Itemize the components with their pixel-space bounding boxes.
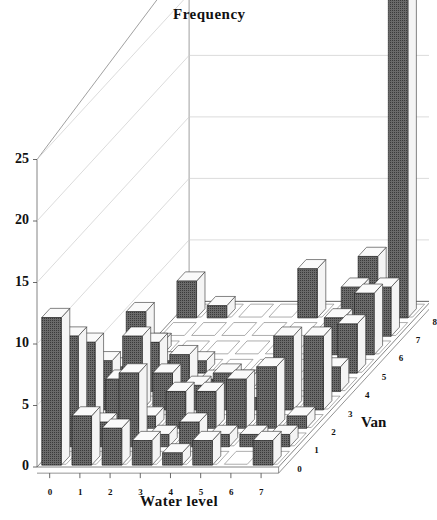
bar xyxy=(227,370,255,428)
bar xyxy=(298,260,326,318)
z-tick-label: 5 xyxy=(382,372,387,382)
bar xyxy=(304,327,332,410)
z-tick-label: 6 xyxy=(399,353,404,363)
x-tick-label: 2 xyxy=(108,487,113,497)
bar xyxy=(132,431,160,465)
bar xyxy=(193,431,221,465)
z-tick-label: 8 xyxy=(433,317,437,327)
z-axis-label: Van xyxy=(361,414,386,431)
x-tick-label: 0 xyxy=(48,487,53,497)
y-tick-label: 25 xyxy=(5,151,29,167)
bar xyxy=(253,431,281,465)
x-axis-label: Water level xyxy=(140,493,218,510)
y-tick-label: 10 xyxy=(5,335,29,351)
x-tick-label: 1 xyxy=(78,487,83,497)
z-tick-label: 3 xyxy=(348,409,353,419)
x-tick-label: 7 xyxy=(259,487,264,497)
bar xyxy=(257,358,285,429)
z-tick-label: 0 xyxy=(297,464,302,474)
z-tick-label: 7 xyxy=(416,335,421,345)
bar xyxy=(177,272,205,318)
bar xyxy=(102,419,130,465)
x-tick-label: 5 xyxy=(199,487,204,497)
y-tick-label: 0 xyxy=(5,458,29,474)
bar xyxy=(42,308,70,465)
x-tick-label: 4 xyxy=(168,487,173,497)
y-tick-label: 20 xyxy=(5,212,29,228)
z-tick-label: 2 xyxy=(331,427,336,437)
x-tick-label: 6 xyxy=(229,487,234,497)
z-tick-label: 1 xyxy=(314,445,319,455)
bar xyxy=(72,407,100,465)
x-tick-label: 3 xyxy=(138,487,143,497)
y-tick-label: 15 xyxy=(5,274,29,290)
chart-title: Frequency xyxy=(173,6,246,23)
bar xyxy=(388,0,416,318)
z-tick-label: 4 xyxy=(365,390,370,400)
y-tick-label: 5 xyxy=(5,397,29,413)
